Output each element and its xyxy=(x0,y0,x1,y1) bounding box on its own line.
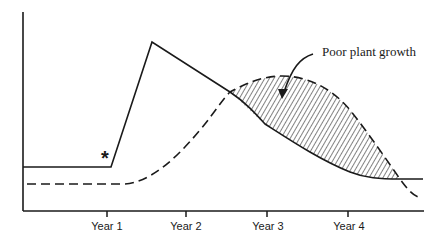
hatched-region xyxy=(220,70,410,185)
asterisk-marker: * xyxy=(101,147,109,169)
chart-canvas: * xyxy=(0,0,447,247)
tick-label-year-4: Year 4 xyxy=(333,220,364,232)
annotation-label: Poor plant growth xyxy=(322,44,416,60)
tick-label-year-3: Year 3 xyxy=(252,220,283,232)
tick-label-year-2: Year 2 xyxy=(170,220,201,232)
x-ticks xyxy=(107,211,348,217)
tick-label-year-1: Year 1 xyxy=(91,220,122,232)
